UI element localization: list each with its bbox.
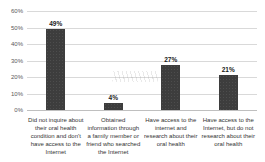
y-tick-label: 10% — [0, 91, 23, 97]
bar-value-label: 27% — [156, 56, 186, 63]
watermark — [112, 71, 158, 82]
plot-area: 49%4%27%21% — [27, 11, 257, 110]
y-tick-label: 0% — [0, 107, 23, 113]
bar — [104, 103, 123, 110]
bar-value-label: 21% — [213, 66, 243, 73]
x-category-label: Did not inquire about their oral health … — [27, 116, 85, 156]
y-tick-label: 30% — [0, 58, 23, 64]
y-tick-label: 60% — [0, 8, 23, 14]
x-category-label: Have access to the internet and research… — [142, 116, 200, 156]
x-category-label: Have access to the Internet, but do not … — [200, 116, 258, 156]
x-axis-line — [27, 110, 257, 111]
bar-chart: 49%4%27%21% Did not inquire about their … — [0, 0, 265, 162]
x-category-label: Obtained information through a family me… — [85, 116, 143, 156]
y-tick-label: 50% — [0, 25, 23, 31]
bar — [161, 65, 180, 110]
x-axis-labels: Did not inquire about their oral health … — [27, 116, 257, 156]
bar — [46, 29, 65, 110]
bar — [219, 75, 238, 110]
bar-value-label: 49% — [41, 20, 71, 27]
bar-value-label: 4% — [98, 94, 128, 101]
gridline — [27, 11, 257, 12]
y-tick-label: 40% — [0, 41, 23, 47]
y-tick-label: 20% — [0, 74, 23, 80]
